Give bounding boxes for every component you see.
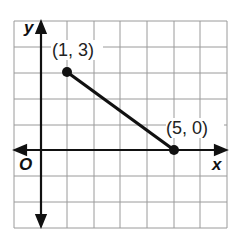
- x-axis-right-arrow-icon: [215, 146, 226, 155]
- y-axis-down-arrow-icon: [37, 215, 46, 226]
- origin-label: O: [19, 155, 32, 174]
- y-axis-label: y: [23, 18, 35, 37]
- graph-svg: (1, 3) (5, 0) y x O: [0, 0, 248, 239]
- y-axis-up-arrow-icon: [37, 22, 46, 33]
- x-axis-left-arrow-icon: [15, 146, 26, 155]
- point-b-label: (5, 0): [166, 118, 208, 138]
- coordinate-plane: (1, 3) (5, 0) y x O: [0, 0, 248, 239]
- point-b: [169, 145, 179, 155]
- point-a: [62, 67, 72, 77]
- point-a-label: (1, 3): [52, 40, 94, 60]
- x-axis-label: x: [211, 155, 223, 174]
